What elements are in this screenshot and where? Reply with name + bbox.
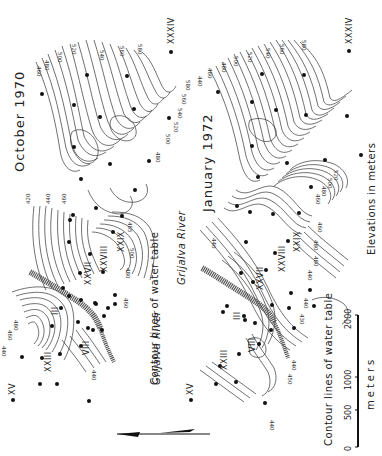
well-label-xv-top: XV: [8, 383, 17, 395]
well-label-xxxiv-bottom: XXXIV: [345, 17, 354, 44]
svg-text:500: 500: [57, 52, 63, 63]
scale-tick-0: 0: [344, 446, 353, 451]
caption-contour-lines-bottom: Contour lines of water table: [323, 293, 334, 446]
scale-unit: meters: [365, 357, 376, 410]
well-label-xxviii-top: XXVIII: [100, 245, 109, 272]
elevation-note: Elevations in meters: [366, 143, 377, 255]
well-label-xxviii-bottom: XXVIII: [278, 245, 287, 272]
svg-text:540: 540: [99, 50, 105, 61]
scale-bar: [355, 315, 358, 447]
svg-text:440: 440: [91, 370, 97, 381]
well-label-viii-bottom: VIII: [248, 337, 257, 352]
svg-text:580: 580: [137, 44, 143, 55]
svg-text:480: 480: [221, 62, 227, 73]
svg-text:465: 465: [127, 222, 133, 233]
svg-text:460: 460: [36, 66, 42, 77]
svg-text:440: 440: [291, 360, 297, 371]
svg-text:540: 540: [265, 48, 271, 59]
caption-contour-lines-top: Contour lines of water table: [149, 232, 160, 385]
panel-title-january-1972: January 1972: [200, 114, 215, 213]
svg-text:440: 440: [307, 270, 313, 281]
grijalva-river-october-1970: [30, 272, 114, 362]
svg-text:460: 460: [123, 298, 129, 309]
svg-text:520: 520: [71, 44, 77, 55]
svg-text:460: 460: [7, 330, 13, 341]
svg-text:440: 440: [197, 76, 203, 87]
svg-text:520: 520: [247, 52, 253, 63]
svg-text:460: 460: [315, 194, 321, 205]
svg-text:440: 440: [45, 193, 51, 204]
svg-text:580: 580: [185, 80, 191, 91]
svg-text:480: 480: [313, 240, 319, 251]
svg-text:440: 440: [211, 238, 217, 249]
well-label-xxix-top: XXIX: [117, 231, 126, 252]
svg-text:560: 560: [181, 94, 187, 105]
scale-tick-2000: 2000: [344, 309, 353, 329]
svg-text:520: 520: [173, 122, 179, 133]
svg-text:440: 440: [269, 420, 275, 431]
svg-text:430: 430: [299, 314, 305, 325]
svg-text:440: 440: [303, 298, 309, 309]
svg-text:450: 450: [287, 374, 293, 385]
well-label-xxiii-top: XXIII: [44, 351, 53, 372]
well-label-xxiii-bottom: XXIII: [220, 349, 229, 370]
svg-text:460: 460: [61, 193, 67, 204]
svg-text:560: 560: [119, 46, 125, 57]
svg-text:480: 480: [125, 268, 131, 279]
svg-text:460: 460: [313, 256, 319, 267]
svg-text:500: 500: [129, 248, 135, 259]
well-label-xxxiv-top: XXXIV: [167, 17, 176, 44]
well-label-viii-top: VIII: [82, 340, 91, 355]
svg-text:440: 440: [1, 346, 7, 357]
svg-text:460: 460: [317, 222, 323, 233]
well-label-iii-top: III: [51, 306, 60, 315]
well-label-xxix-bottom: XXIX: [293, 231, 302, 252]
svg-text:500: 500: [165, 134, 171, 145]
well-label-xv-bottom: XV: [186, 383, 195, 395]
well-label-iii-bottom: III: [233, 311, 242, 320]
svg-text:500: 500: [233, 56, 239, 67]
well-label-xxvii-bottom: XXVII: [256, 266, 265, 290]
river-label-january-1972: Grijalva River: [176, 211, 187, 285]
north-arrow-icon: [117, 429, 210, 437]
svg-text:480: 480: [155, 152, 161, 163]
well-label-xxvii-top: XXVII: [84, 261, 93, 285]
grijalva-river-january-1972: [202, 268, 288, 358]
svg-text:580: 580: [301, 40, 307, 51]
svg-text:460: 460: [207, 68, 213, 79]
scale-tick-500: 500: [344, 405, 353, 420]
svg-text:540: 540: [177, 108, 183, 119]
panel-title-october-1970: October 1970: [12, 71, 27, 172]
svg-text:480: 480: [44, 60, 50, 71]
svg-text:560: 560: [279, 44, 285, 55]
svg-text:420: 420: [25, 193, 31, 204]
scale-tick-1000: 1000: [344, 370, 353, 390]
